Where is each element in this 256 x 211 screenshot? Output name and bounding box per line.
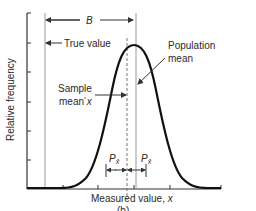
precision-indicator: Px̄ Px̄ [106,153,152,177]
diagram-canvas: B True value Sample mean x Population me… [0,0,256,211]
precision-right-label: Px̄ [141,153,152,165]
y-axis-label: Relative frequency [5,58,16,141]
sample-mean-text: mean [59,96,87,107]
sample-mean-label-line1: Sample [58,83,92,94]
population-mean-label-line1: Population [168,40,215,51]
bias-label: B [86,15,93,26]
precision-left-sub: x̄ [115,158,120,165]
distribution-curve [27,45,221,188]
sample-mean-var: x [86,96,93,107]
true-value-annotation: True value [46,38,111,49]
precision-right-sub: x̄ [147,158,152,165]
panel-label: (b) [117,205,129,211]
x-axis-var: x [167,193,174,204]
y-axis [27,13,31,189]
sample-mean-annotation: Sample mean x [58,83,126,107]
x-axis-label-text: Measured value, [91,193,168,204]
sample-mean-label-line2: mean x [59,96,93,107]
bias-indicator: B [46,15,133,26]
x-axis-label: Measured value, x [91,193,174,204]
precision-left-label: Px̄ [109,153,120,165]
population-mean-label-line2: mean [168,53,193,64]
true-value-label: True value [64,38,111,49]
